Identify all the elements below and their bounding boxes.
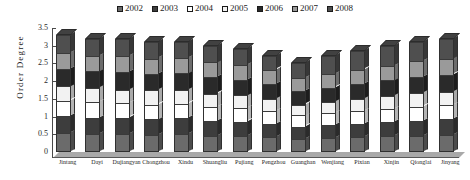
bar-segment[interactable]: [144, 42, 159, 58]
stacked-bar[interactable]: [144, 42, 159, 152]
bar-group[interactable]: [112, 28, 140, 152]
bar-segment[interactable]: [321, 113, 336, 125]
bar-segment[interactable]: [262, 137, 277, 152]
stacked-bar[interactable]: [321, 56, 336, 152]
bar-segment[interactable]: [144, 59, 159, 75]
bar-segment[interactable]: [439, 59, 454, 75]
bar-segment[interactable]: [350, 124, 365, 137]
bar-segment[interactable]: [144, 90, 159, 104]
bar-segment[interactable]: [174, 90, 189, 103]
bar-segment[interactable]: [350, 51, 365, 69]
bar-segment[interactable]: [439, 119, 454, 135]
bar-segment[interactable]: [262, 111, 277, 124]
bar-segment[interactable]: [115, 56, 130, 72]
bar-segment[interactable]: [380, 46, 395, 66]
bar-segment[interactable]: [321, 56, 336, 74]
bar-segment[interactable]: [233, 108, 248, 121]
bar-segment[interactable]: [291, 78, 306, 91]
bar-segment[interactable]: [321, 74, 336, 87]
bar-segment[interactable]: [174, 104, 189, 118]
bar-segment[interactable]: [203, 121, 218, 136]
bar-group[interactable]: [53, 28, 81, 152]
bar-group[interactable]: [347, 28, 375, 152]
bar-segment[interactable]: [380, 109, 395, 122]
bar-group[interactable]: [259, 28, 287, 152]
bar-segment[interactable]: [174, 134, 189, 152]
bar-segment[interactable]: [291, 139, 306, 152]
bar-segment[interactable]: [409, 42, 424, 61]
bar-segment[interactable]: [115, 90, 130, 103]
bar-segment[interactable]: [56, 35, 71, 53]
bar-segment[interactable]: [56, 86, 71, 100]
legend-item[interactable]: 2005: [222, 4, 248, 13]
bar-segment[interactable]: [203, 62, 218, 77]
bar-segment[interactable]: [56, 69, 71, 87]
legend-item[interactable]: 2004: [187, 4, 213, 13]
bar-segment[interactable]: [115, 103, 130, 117]
bar-segment[interactable]: [350, 84, 365, 99]
bar-segment[interactable]: [144, 105, 159, 120]
bar-segment[interactable]: [380, 136, 395, 152]
bar-segment[interactable]: [439, 135, 454, 152]
bar-segment[interactable]: [409, 77, 424, 93]
bar-segment[interactable]: [144, 74, 159, 90]
bar-segment[interactable]: [85, 56, 100, 72]
bar-segment[interactable]: [56, 116, 71, 133]
bar-segment[interactable]: [233, 95, 248, 108]
bar-segment[interactable]: [174, 118, 189, 134]
stacked-bar[interactable]: [439, 39, 454, 152]
legend-item[interactable]: 2006: [257, 4, 283, 13]
bar-segment[interactable]: [380, 122, 395, 136]
bar-segment[interactable]: [203, 136, 218, 152]
bar-group[interactable]: [230, 28, 258, 152]
bar-segment[interactable]: [85, 134, 100, 152]
bar-segment[interactable]: [350, 99, 365, 111]
stacked-bar[interactable]: [56, 35, 71, 152]
bar-segment[interactable]: [380, 80, 395, 96]
bar-segment[interactable]: [144, 119, 159, 135]
bar-segment[interactable]: [350, 137, 365, 152]
bar-segment[interactable]: [203, 107, 218, 121]
bar-group[interactable]: [171, 28, 199, 152]
bar-segment[interactable]: [85, 88, 100, 102]
legend-item[interactable]: 2003: [152, 4, 178, 13]
bar-segment[interactable]: [350, 111, 365, 124]
legend-item[interactable]: 2008: [327, 4, 353, 13]
bar-segment[interactable]: [409, 107, 424, 121]
bar-segment[interactable]: [291, 105, 306, 116]
stacked-bar[interactable]: [203, 46, 218, 152]
bar-group[interactable]: [82, 28, 110, 152]
bar-segment[interactable]: [321, 138, 336, 152]
bar-segment[interactable]: [409, 121, 424, 136]
bar-group[interactable]: [288, 28, 316, 152]
bar-segment[interactable]: [115, 118, 130, 134]
legend-item[interactable]: 2002: [117, 4, 143, 13]
bar-segment[interactable]: [321, 88, 336, 102]
bar-segment[interactable]: [203, 94, 218, 107]
bar-segment[interactable]: [291, 63, 306, 78]
bar-segment[interactable]: [380, 96, 395, 109]
bar-group[interactable]: [200, 28, 228, 152]
bar-segment[interactable]: [115, 72, 130, 90]
bar-segment[interactable]: [380, 66, 395, 81]
bar-segment[interactable]: [56, 101, 71, 116]
bar-segment[interactable]: [409, 61, 424, 77]
bar-segment[interactable]: [203, 46, 218, 63]
bar-segment[interactable]: [262, 56, 277, 69]
bar-segment[interactable]: [174, 58, 189, 74]
bar-segment[interactable]: [262, 70, 277, 84]
bar-segment[interactable]: [439, 75, 454, 92]
bar-segment[interactable]: [233, 136, 248, 152]
bar-segment[interactable]: [233, 65, 248, 80]
bar-segment[interactable]: [174, 42, 189, 58]
bar-segment[interactable]: [85, 39, 100, 56]
stacked-bar[interactable]: [409, 42, 424, 152]
bar-segment[interactable]: [439, 92, 454, 105]
bar-segment[interactable]: [409, 136, 424, 152]
bar-segment[interactable]: [439, 105, 454, 119]
bar-segment[interactable]: [233, 122, 248, 136]
stacked-bar[interactable]: [291, 63, 306, 152]
stacked-bar[interactable]: [115, 39, 130, 152]
bar-segment[interactable]: [262, 124, 277, 137]
stacked-bar[interactable]: [233, 49, 248, 152]
